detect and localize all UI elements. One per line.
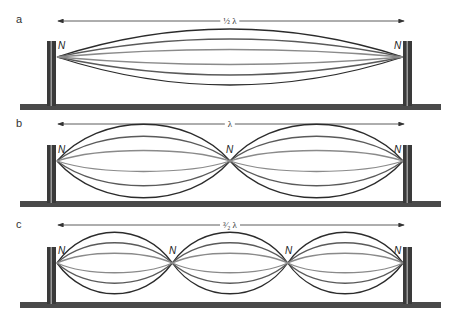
panel-a — [20, 21, 441, 110]
node-label-c-4: N — [394, 246, 401, 256]
string-curves-a — [57, 29, 403, 85]
ground-bar-b — [20, 201, 441, 207]
node-label-b-middle: N — [226, 145, 233, 155]
post-left-a — [47, 41, 56, 106]
ground-bar-c — [20, 302, 441, 308]
panel-label-c: c — [16, 218, 22, 230]
node-label-b-right: N — [394, 145, 401, 155]
post-right-c — [403, 247, 412, 304]
post-left-b — [47, 145, 56, 203]
string-curves-c — [57, 232, 403, 294]
dimension-label-b: λ — [225, 119, 235, 129]
standing-waves-diagram — [0, 0, 452, 325]
node-label-b-left: N — [58, 145, 65, 155]
node-label-c-1: N — [58, 246, 65, 256]
panel-b — [20, 124, 441, 207]
panel-label-a: a — [16, 13, 22, 25]
post-left-c — [47, 247, 56, 304]
node-label-a-left: N — [58, 41, 65, 51]
panel-label-b: b — [16, 117, 22, 129]
node-label-a-right: N — [394, 41, 401, 51]
ground-bar-a — [20, 104, 441, 110]
dimension-label-c: ³⁄₂ λ — [220, 220, 240, 230]
post-right-b — [403, 145, 412, 203]
post-right-a — [403, 41, 412, 106]
panel-c — [20, 225, 441, 308]
string-curves-b — [57, 124, 403, 198]
node-label-c-2: N — [169, 246, 176, 256]
node-label-c-3: N — [285, 246, 292, 256]
dimension-label-a: ½ λ — [220, 16, 239, 26]
